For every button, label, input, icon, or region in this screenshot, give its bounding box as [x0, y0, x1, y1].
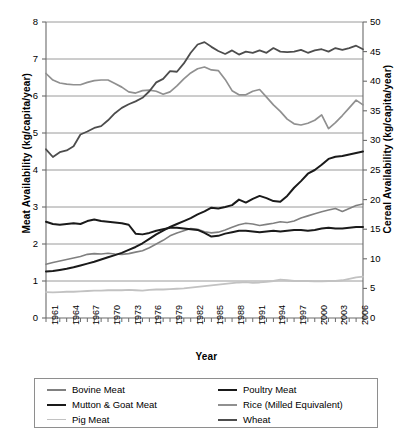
x-tick-label: 1973 — [133, 305, 143, 325]
y-right-tick-label: 30 — [370, 135, 392, 145]
legend-swatch-line-icon — [47, 389, 66, 391]
y-left-tick-label: 0 — [16, 313, 38, 323]
legend-label: Bovine Meat — [72, 384, 125, 395]
x-tick-label: 1991 — [257, 305, 267, 325]
legend-swatch-line-icon — [47, 404, 66, 406]
y-left-tick-label: 3 — [16, 202, 38, 212]
series-line-pig-meat — [46, 277, 363, 293]
y-right-tick-label: 10 — [370, 254, 392, 264]
legend-item[interactable]: Bovine Meat — [47, 382, 157, 397]
x-tick-label: 1994 — [277, 305, 287, 325]
chart-legend: Bovine MeatMutton & Goat MeatPig Meat Po… — [34, 378, 378, 428]
data-series-layer — [46, 42, 363, 292]
x-tick-label: 1979 — [174, 305, 184, 325]
y-right-tick-label: 45 — [370, 47, 392, 57]
legend-label: Poultry Meat — [243, 384, 296, 395]
x-tick-label: 1997 — [298, 305, 308, 325]
chart-figure: Meat Availability (kg/capita/year) Cerea… — [0, 0, 413, 440]
y-left-tick-label: 6 — [16, 91, 38, 101]
x-tick-label: 2003 — [339, 305, 349, 325]
series-line-rice-milled-equivalent — [46, 67, 363, 129]
legend-item[interactable]: Poultry Meat — [218, 382, 343, 397]
y-left-tick-label: 5 — [16, 128, 38, 138]
x-tick-label: 1988 — [236, 305, 246, 325]
plot-area — [0, 0, 413, 440]
y-right-tick-label: 20 — [370, 195, 392, 205]
x-tick-label: 1961 — [50, 305, 60, 325]
series-line-mutton-goat-meat — [46, 220, 363, 237]
x-tick-label: 1970 — [112, 305, 122, 325]
legend-column-1: Bovine MeatMutton & Goat MeatPig Meat — [47, 382, 157, 427]
y-right-tick-label: 35 — [370, 106, 392, 116]
legend-swatch-line-icon — [218, 419, 237, 421]
y-right-tick-label: 50 — [370, 17, 392, 27]
legend-label: Rice (Milled Equivalent) — [243, 399, 343, 410]
legend-label: Pig Meat — [72, 414, 110, 425]
legend-label: Mutton & Goat Meat — [72, 399, 157, 410]
x-tick-label: 1964 — [71, 305, 81, 325]
x-tick-label: 1982 — [195, 305, 205, 325]
legend-item[interactable]: Rice (Milled Equivalent) — [218, 397, 343, 412]
y-right-tick-label: 15 — [370, 224, 392, 234]
x-tick-label: 2000 — [319, 305, 329, 325]
x-tick-label: 1985 — [215, 305, 225, 325]
series-line-bovine-meat — [46, 204, 363, 264]
y-right-tick-label: 5 — [370, 283, 392, 293]
legend-column-2: Poultry MeatRice (Milled Equivalent)Whea… — [218, 382, 343, 427]
y-left-tick-label: 7 — [16, 54, 38, 64]
legend-item[interactable]: Mutton & Goat Meat — [47, 397, 157, 412]
x-tick-label: 2006 — [360, 305, 370, 325]
legend-swatch-line-icon — [218, 389, 237, 391]
y-right-tick-label: 40 — [370, 76, 392, 86]
y-left-tick-label: 8 — [16, 17, 38, 27]
y-left-tick-label: 4 — [16, 165, 38, 175]
x-tick-label: 1976 — [153, 305, 163, 325]
legend-swatch-line-icon — [218, 404, 237, 406]
y-right-tick-label: 25 — [370, 165, 392, 175]
gridlines — [46, 22, 363, 281]
legend-swatch-line-icon — [47, 419, 66, 420]
y-left-tick-label: 1 — [16, 276, 38, 286]
y-left-tick-label: 2 — [16, 239, 38, 249]
legend-item[interactable]: Pig Meat — [47, 412, 157, 427]
x-tick-label: 1967 — [91, 305, 101, 325]
legend-item[interactable]: Wheat — [218, 412, 343, 427]
y-right-tick-label: 0 — [370, 313, 392, 323]
legend-label: Wheat — [243, 414, 270, 425]
